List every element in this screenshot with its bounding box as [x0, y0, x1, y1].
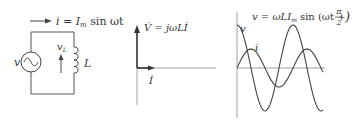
wire-bottom — [31, 72, 74, 94]
current-waveform-label: i — [255, 42, 258, 53]
current-equation: i = Im sin ωt — [56, 15, 124, 29]
source-label: v — [14, 56, 21, 69]
current-arrow-head-icon — [45, 19, 52, 24]
phasor-panel: V̇ = jωLİ İ — [134, 22, 216, 105]
wire-top — [31, 32, 74, 52]
voltage-equation: v = ωLIm sin (ωt + — [252, 11, 346, 23]
inductor-coil-icon — [74, 47, 78, 73]
fraction-denominator: 2 — [335, 18, 341, 27]
inductive-ac-diagram: i = Im sin ωt v L vL V̇ = jωLİ İ — [0, 0, 356, 126]
close-paren: ) — [344, 9, 350, 24]
circuit-panel: i = Im sin ωt v L vL — [14, 15, 124, 94]
voltage-waveform-label: v — [240, 23, 246, 34]
vl-arrow-head-icon — [59, 54, 64, 60]
voltage-phasor-arrow-icon — [134, 25, 140, 33]
waveform-panel: v i v = ωLIm sin (ωt + π 2 ) — [237, 7, 350, 118]
inductor-label: L — [83, 57, 91, 70]
fraction-numerator: π — [335, 7, 342, 16]
vl-label: vL — [57, 41, 67, 53]
current-phasor-arrow-icon — [148, 66, 155, 71]
voltage-phasor-label: V̇ = jωLİ — [144, 22, 189, 33]
current-phasor-label: İ — [148, 75, 154, 86]
